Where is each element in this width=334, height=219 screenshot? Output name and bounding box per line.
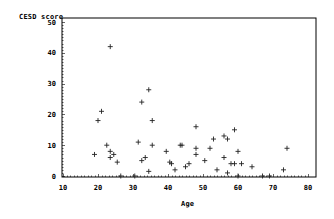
data-point-plus-icon: [146, 87, 151, 92]
x-axis-title: Age: [181, 200, 194, 208]
x-tick-label: 70: [269, 184, 277, 192]
data-point-plus-icon: [208, 146, 213, 151]
data-point-plus-icon: [146, 169, 151, 174]
x-tick-label: 60: [234, 184, 242, 192]
data-point-plus-icon: [236, 149, 241, 154]
data-point-plus-icon: [132, 174, 137, 179]
data-point-plus-icon: [92, 152, 97, 157]
y-tick-label: 40: [48, 49, 56, 57]
data-point-plus-icon: [111, 152, 116, 157]
data-point-plus-icon: [104, 143, 109, 148]
x-tick-label: 80: [304, 184, 312, 192]
data-point-plus-icon: [225, 137, 230, 142]
data-point-plus-icon: [194, 152, 199, 157]
data-point-plus-icon: [232, 161, 237, 166]
data-point-plus-icon: [164, 149, 169, 154]
data-point-plus-icon: [108, 155, 113, 160]
data-point-plus-icon: [236, 174, 241, 179]
y-tick-label: 10: [48, 142, 56, 150]
y-tick-label: 20: [48, 111, 56, 119]
data-point-plus-icon: [232, 127, 237, 132]
data-point-plus-icon: [211, 137, 216, 142]
data-point-plus-icon: [150, 143, 155, 148]
data-point-plus-icon: [202, 158, 207, 163]
y-tick-label: 30: [48, 80, 56, 88]
y-tick-label: 0: [52, 173, 56, 181]
data-point-plus-icon: [194, 146, 199, 151]
data-point-plus-icon: [194, 124, 199, 129]
data-point-plus-icon: [281, 167, 286, 172]
x-tick-label: 40: [164, 184, 172, 192]
data-point-plus-icon: [139, 158, 144, 163]
data-point-plus-icon: [139, 100, 144, 105]
data-point-plus-icon: [222, 133, 227, 138]
data-point-plus-icon: [267, 174, 272, 179]
data-point-plus-icon: [222, 155, 227, 160]
data-point-plus-icon: [99, 109, 104, 114]
x-tick-label: 10: [59, 184, 67, 192]
data-point-plus-icon: [260, 174, 265, 179]
data-point-plus-icon: [115, 160, 120, 165]
data-point-plus-icon: [96, 118, 101, 123]
x-tick-label: 50: [199, 184, 207, 192]
data-point-plus-icon: [143, 155, 148, 160]
data-point-plus-icon: [118, 174, 123, 179]
scatter-plot: 010203040501020304050607080: [0, 0, 334, 219]
data-point-plus-icon: [173, 167, 178, 172]
x-tick-label: 20: [94, 184, 102, 192]
data-point-plus-icon: [215, 167, 220, 172]
x-tick-label: 30: [129, 184, 137, 192]
data-point-plus-icon: [250, 164, 255, 169]
data-point-plus-icon: [187, 161, 192, 166]
data-point-plus-icon: [136, 140, 141, 145]
data-point-plus-icon: [285, 146, 290, 151]
data-point-plus-icon: [239, 161, 244, 166]
data-point-plus-icon: [108, 149, 113, 154]
data-point-plus-icon: [108, 44, 113, 49]
y-axis-title: CESD score: [19, 13, 63, 21]
plot-frame: [62, 18, 316, 177]
data-point-plus-icon: [225, 170, 230, 175]
data-point-plus-icon: [150, 118, 155, 123]
data-point-plus-icon: [183, 164, 188, 169]
